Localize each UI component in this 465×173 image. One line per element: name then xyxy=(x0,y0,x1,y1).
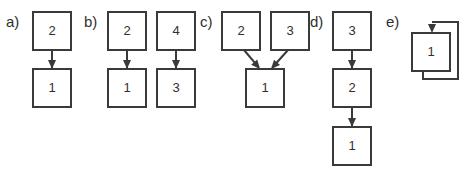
graph-figure: a)21b)2413c)231d)321e)1 xyxy=(0,0,465,173)
node-label: 2 xyxy=(237,23,244,38)
panels-layer: a)21b)2413c)231d)321e)1 xyxy=(6,12,458,165)
panel-e: e)1 xyxy=(386,13,458,79)
node-label: 1 xyxy=(261,80,268,95)
node-label: 3 xyxy=(172,80,179,95)
edge-arrowhead xyxy=(428,24,436,33)
node-label: 2 xyxy=(348,80,355,95)
node-label: 1 xyxy=(48,80,55,95)
panel-b: b)2413 xyxy=(84,12,195,107)
panel-label: b) xyxy=(84,13,97,30)
panel-label: a) xyxy=(6,13,19,30)
edge-arrowhead xyxy=(48,60,56,69)
panel-label: c) xyxy=(200,13,213,30)
panel-label: e) xyxy=(386,13,399,30)
node-label: 3 xyxy=(286,23,293,38)
node-label: 3 xyxy=(348,23,355,38)
edge-arrowhead xyxy=(348,60,356,69)
node-label: 1 xyxy=(348,138,355,153)
edge-arrowhead xyxy=(172,60,180,69)
edge-arrowhead xyxy=(123,60,131,69)
graph-svg: a)21b)2413c)231d)321e)1 xyxy=(0,0,465,173)
node-label: 2 xyxy=(48,23,55,38)
node-label: 4 xyxy=(172,23,179,38)
node-label: 1 xyxy=(427,44,434,59)
node-label: 2 xyxy=(123,23,130,38)
panel-label: d) xyxy=(310,13,323,30)
panel-a: a)21 xyxy=(6,12,71,107)
edge-arrowhead xyxy=(348,118,356,127)
panel-d: d)321 xyxy=(310,12,371,165)
node-label: 1 xyxy=(123,80,130,95)
panel-c: c)231 xyxy=(200,12,309,107)
